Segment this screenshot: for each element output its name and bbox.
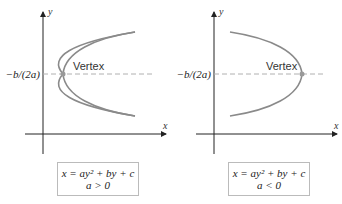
left-equation: x = ay² + by + c (58, 167, 138, 179)
right-condition: a < 0 (229, 179, 309, 191)
left-condition: a > 0 (58, 179, 138, 191)
left-panel: Vertex −b/(2a) y x (6, 6, 168, 154)
left-equation-box: x = ay² + by + c a > 0 (57, 162, 139, 196)
right-y-tick-label: −b/(2a) (177, 68, 212, 81)
right-vertex-dot (300, 72, 305, 77)
right-equation: x = ay² + by + c (229, 167, 309, 179)
right-vertex-label: Vertex (266, 60, 298, 72)
right-equation-box: x = ay² + by + c a < 0 (228, 162, 310, 196)
left-y-tick-label: −b/(2a) (6, 68, 41, 81)
right-y-axis-label: y (218, 6, 224, 17)
right-panel: Vertex −b/(2a) y x (177, 6, 339, 154)
left-x-axis-label: x (162, 120, 168, 131)
right-x-axis-label: x (333, 120, 339, 131)
left-vertex-label: Vertex (73, 60, 105, 72)
left-y-axis-label: y (47, 6, 53, 17)
left-vertex-dot (61, 72, 66, 77)
